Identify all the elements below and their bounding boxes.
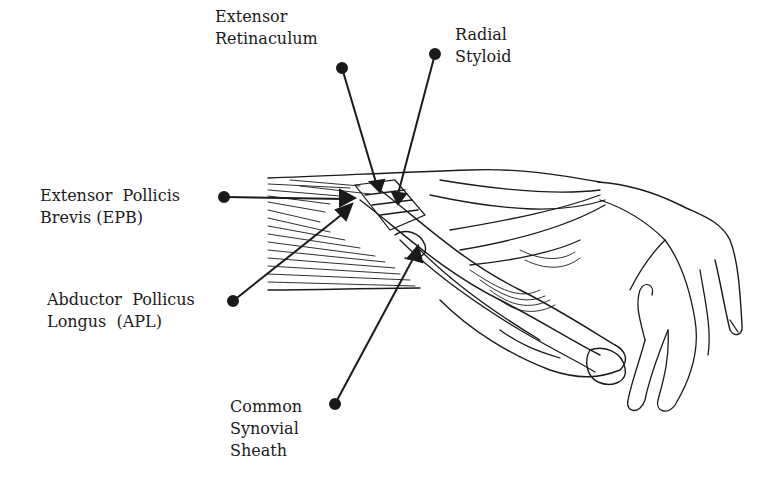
label-epb: Extensor Pollicis Brevis (EPB) bbox=[40, 185, 180, 229]
label-line: Extensor bbox=[215, 6, 318, 28]
label-line: Common bbox=[230, 396, 302, 418]
label-line: Brevis (EPB) bbox=[40, 207, 180, 229]
label-line: Radial bbox=[455, 24, 512, 46]
label-line: Styloid bbox=[455, 46, 512, 68]
label-line: Extensor Pollicis bbox=[40, 185, 180, 207]
label-extensor-retinaculum: Extensor Retinaculum bbox=[215, 6, 318, 50]
label-common-synovial-sheath: Common Synovial Sheath bbox=[230, 396, 302, 462]
label-radial-styloid: Radial Styloid bbox=[455, 24, 512, 68]
label-line: Synovial bbox=[230, 418, 302, 440]
anatomy-illustration bbox=[0, 0, 777, 487]
label-line: Longus (APL) bbox=[47, 311, 195, 333]
label-line: Sheath bbox=[230, 440, 302, 462]
label-line: Abductor Pollicus bbox=[47, 289, 195, 311]
label-apl: Abductor Pollicus Longus (APL) bbox=[47, 289, 195, 333]
label-line: Retinaculum bbox=[215, 28, 318, 50]
